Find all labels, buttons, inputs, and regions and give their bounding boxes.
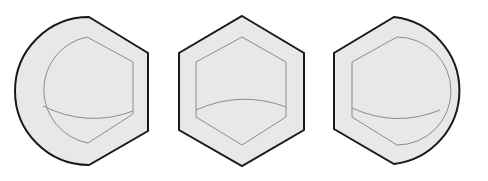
right-rounded-hex-shape [334, 17, 459, 164]
center-hex-shape [179, 16, 304, 166]
left-rounded-hex-shape [15, 17, 148, 165]
hex-shapes-diagram [0, 0, 488, 181]
outer-outline [15, 17, 148, 165]
outer-outline [179, 16, 304, 166]
outer-outline [334, 17, 459, 164]
